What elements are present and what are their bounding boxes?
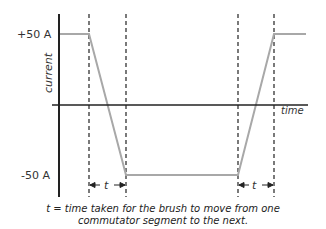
commutator-current-diagram: current time +50 A -50 A t t <box>0 0 326 229</box>
y-tick-plus-50: +50 A <box>17 28 52 41</box>
interval-label-right: t <box>252 179 257 192</box>
y-axis-label: current <box>42 52 55 93</box>
y-tick-minus-50: -50 A <box>21 169 50 182</box>
caption-line-1: t = time taken for the brush to move fro… <box>0 203 326 215</box>
x-axis-label: time <box>281 105 304 116</box>
caption-line-2: commutator segment to the next. <box>0 215 326 227</box>
interval-label-left: t <box>104 179 109 192</box>
